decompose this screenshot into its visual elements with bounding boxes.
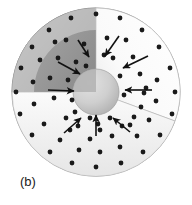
surface-dot <box>157 45 162 50</box>
left-face-dot <box>64 38 69 43</box>
left-face-dot <box>56 56 61 61</box>
surface-dot <box>94 165 99 170</box>
bottom-face-dot <box>132 115 137 120</box>
figure-container: (b) <box>0 0 192 205</box>
right-face-dot <box>105 36 110 41</box>
bottom-face-dot <box>64 116 69 121</box>
shell-dot <box>135 134 140 139</box>
right-face-dot <box>122 93 127 98</box>
surface-dot <box>170 112 175 117</box>
left-face-dot <box>66 78 71 83</box>
figure-caption-label: (b) <box>20 174 36 189</box>
inner-core-group <box>73 69 119 115</box>
surface-dot <box>94 12 99 17</box>
shell-dot <box>77 148 82 153</box>
shell-dot <box>58 138 63 143</box>
right-face-dot <box>111 56 116 61</box>
surface-dot <box>168 66 173 71</box>
left-face-dot <box>74 60 79 65</box>
shell-dot <box>38 58 43 63</box>
surface-dot <box>30 45 35 50</box>
surface-dot <box>173 90 178 95</box>
shell-dot <box>31 80 36 85</box>
bottom-face-dot <box>88 116 93 121</box>
shell-dot <box>110 134 115 139</box>
inward-arrow-left-face <box>48 90 74 91</box>
surface-dot <box>119 161 124 166</box>
left-face-dot <box>70 98 75 103</box>
right-face-dot <box>124 38 129 43</box>
shell-dot <box>98 150 103 155</box>
surface-dot <box>140 28 145 33</box>
left-face-dot <box>52 96 57 101</box>
right-face-dot <box>131 55 136 60</box>
surface-dot <box>141 150 146 155</box>
surface-dot <box>69 16 74 21</box>
surface-dot <box>30 133 35 138</box>
left-face-dot <box>84 64 89 69</box>
cutaway-sphere-diagram: (b) <box>0 0 192 205</box>
shell-dot <box>73 110 78 115</box>
shell-dot <box>155 78 160 83</box>
shell-dot <box>42 122 47 127</box>
surface-dot <box>18 112 23 117</box>
left-face-dot <box>48 76 53 81</box>
shell-dot <box>128 123 133 128</box>
right-face-dot <box>142 91 147 96</box>
shell-dot <box>53 40 58 45</box>
shell-dot <box>139 105 144 110</box>
shell-dot <box>32 102 37 107</box>
right-face-dot <box>118 74 123 79</box>
right-face-dot <box>138 72 143 77</box>
surface-dot <box>19 66 24 71</box>
shell-dot <box>118 145 123 150</box>
bottom-face-dot <box>76 124 81 129</box>
shell-dot <box>147 118 152 123</box>
surface-dot <box>158 133 163 138</box>
shell-dot <box>88 137 93 142</box>
shell-dot <box>154 99 159 104</box>
surface-dot <box>118 16 123 21</box>
bottom-face-dot <box>98 128 103 133</box>
bottom-face-dot <box>108 116 113 121</box>
surface-dot <box>70 161 75 166</box>
surface-dot <box>14 90 19 95</box>
surface-dot <box>47 28 52 33</box>
surface-dot <box>48 150 53 155</box>
